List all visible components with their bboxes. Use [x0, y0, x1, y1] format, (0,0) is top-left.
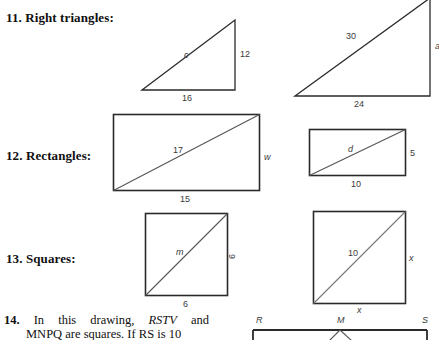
- problem-11-text: Right triangles:: [25, 10, 114, 25]
- square-right-base-label: x: [357, 306, 362, 315]
- problem-12-text: Rectangles:: [26, 148, 91, 163]
- square-left-side-label: 6: [228, 254, 237, 259]
- triangle-left-vertical-label: 12: [240, 50, 250, 59]
- triangle-right-base-label: 24: [354, 100, 364, 109]
- problem-14-line-1: 14. In this drawing, RSTV and: [4, 313, 209, 327]
- problem-14-word-this: this: [58, 313, 76, 327]
- problem-13-number: 13.: [6, 251, 23, 266]
- problem-14-number: 14.: [4, 313, 20, 327]
- figure-rectangle-left: 17 w 15: [112, 113, 262, 193]
- problem-11-label: 11. Right triangles:: [6, 10, 114, 26]
- problem-11-number: 11.: [6, 10, 22, 25]
- rectangle-left-base-label: 15: [180, 195, 190, 204]
- rectangle-right-side-label: 5: [410, 149, 415, 158]
- problem-14-word-and: and: [191, 313, 209, 327]
- triangle-right-hypotenuse-label: 30: [346, 32, 356, 41]
- figure-right-triangle-right: 30 a 24: [292, 0, 439, 102]
- rectangle-left-diagonal-label: 17: [173, 146, 183, 155]
- figure-square-left: m 6 6: [144, 212, 230, 298]
- square-right-diagonal-label: 10: [348, 249, 358, 258]
- problem-14-square-rstv: RSTV: [148, 313, 176, 327]
- problem-13-text: Squares:: [26, 251, 76, 266]
- square-diagonal: [146, 214, 228, 296]
- triangle-outline: [295, 0, 430, 96]
- square-diagonal: [314, 212, 406, 304]
- problem-14-block: 14. In this drawing, RSTV and MNPQ are s…: [4, 313, 216, 340]
- bottom-drawing-vertex-s: S: [422, 316, 428, 325]
- bottom-drawing-inner-line-left: [318, 330, 340, 340]
- triangle-left-base-label: 16: [182, 94, 192, 103]
- rectangle-diagonal: [114, 115, 260, 191]
- problem-12-label: 12. Rectangles:: [6, 148, 91, 164]
- problem-12-number: 12.: [6, 148, 23, 163]
- worksheet-page: 11. Right triangles: c 12 16 30 a 24 12.…: [0, 0, 439, 340]
- rectangle-right-base-label: 10: [351, 180, 361, 189]
- square-left-base-label: 6: [183, 300, 188, 309]
- problem-14-line-2: MNPQ are squares. If RS is 10: [4, 327, 216, 340]
- rectangle-left-side-label: w: [264, 153, 271, 162]
- rectangle-right-diagonal-label: d: [348, 145, 353, 154]
- square-right-side-label: x: [409, 254, 414, 263]
- figure-square-right: 10 x x: [312, 210, 408, 306]
- bottom-drawing-inner-line-right: [340, 330, 364, 340]
- triangle-right-vertical-label: a: [435, 42, 439, 51]
- triangle-left-hypotenuse-label: c: [184, 51, 189, 60]
- bottom-drawing-vertex-m: M: [337, 316, 345, 325]
- rectangle-diagonal: [310, 130, 406, 176]
- problem-14-word-in: In: [34, 313, 44, 327]
- figure-right-triangle-left: c 12 16: [140, 16, 245, 98]
- problem-14-word-drawing: drawing,: [90, 313, 134, 327]
- square-left-diagonal-label: m: [176, 248, 184, 257]
- bottom-drawing-vertex-r: R: [256, 316, 263, 325]
- problem-13-label: 13. Squares:: [6, 251, 76, 267]
- figure-rectangle-right: d 5 10: [308, 128, 408, 178]
